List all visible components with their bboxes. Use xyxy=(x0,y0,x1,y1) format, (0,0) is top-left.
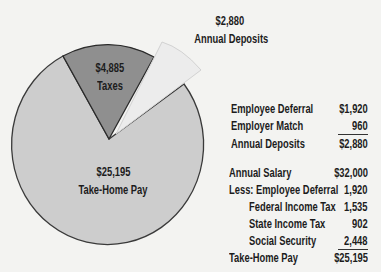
row-label: Federal Income Tax xyxy=(249,199,336,215)
row-value: 902 xyxy=(352,216,368,232)
table-row: Take-Home Pay $25,195 xyxy=(229,250,368,266)
row-value: $32,000 xyxy=(334,165,368,181)
table-row: Employee Deferral $1,920 xyxy=(231,101,368,117)
table-row: Federal Income Tax 1,535 xyxy=(249,199,368,215)
take-home-name: Take-Home Pay xyxy=(78,181,147,199)
take-home-amount: $25,195 xyxy=(96,163,130,181)
deposits-amount: $2,880 xyxy=(216,12,245,30)
row-label: Take-Home Pay xyxy=(229,250,298,266)
table-row: Annual Salary $32,000 xyxy=(229,165,368,181)
table-row: Annual Deposits $2,880 xyxy=(231,136,368,152)
table-row: State Income Tax 902 xyxy=(249,216,368,232)
row-value: 1,920 xyxy=(345,182,368,198)
taxes-name: Taxes xyxy=(97,77,123,95)
table-row: Less: Employee Deferral 1,920 xyxy=(229,182,368,198)
table-row: Social Security 2,448 xyxy=(249,233,368,249)
row-label: Less: Employee Deferral xyxy=(229,182,338,198)
row-label: Social Security xyxy=(249,233,316,249)
row-label: Annual Deposits xyxy=(231,136,305,152)
taxes-amount: $4,885 xyxy=(96,59,125,77)
row-value: $25,195 xyxy=(334,250,368,266)
row-value: 2,448 xyxy=(345,233,368,249)
deposits-name: Annual Deposits xyxy=(194,30,268,48)
subtotal-underline xyxy=(338,134,368,135)
table-row: Employer Match 960 xyxy=(231,118,368,134)
row-value: $1,920 xyxy=(339,101,368,117)
row-label: Annual Salary xyxy=(229,165,291,181)
deposits-label: $2,880 Annual Deposits xyxy=(180,12,280,48)
row-label: Employee Deferral xyxy=(231,101,313,117)
deposits-table: Employee Deferral $1,920 Employer Match … xyxy=(231,101,368,155)
row-label: State Income Tax xyxy=(249,216,325,232)
take-home-label: $25,195 Take-Home Pay xyxy=(58,163,168,199)
row-value: 960 xyxy=(352,118,368,134)
taxes-label: $4,885 Taxes xyxy=(72,59,148,95)
row-label: Employer Match xyxy=(231,118,303,134)
row-value: 1,535 xyxy=(345,199,368,215)
pay-table: Annual Salary $32,000 Less: Employee Def… xyxy=(229,165,368,261)
row-value: $2,880 xyxy=(339,136,368,152)
